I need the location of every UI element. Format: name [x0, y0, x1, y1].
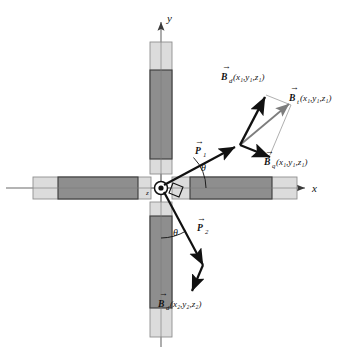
bt1-main: B — [288, 93, 295, 103]
bq1-args: (x₁,y₁,z₁) — [276, 157, 307, 167]
vector-diagram-svg: y x z θ θ → P 1 → P 2 → B d — [0, 0, 349, 353]
p1-main: P — [195, 146, 201, 156]
bt1-args: (x₁,y₁,z₁) — [300, 93, 331, 103]
bd1-main: B — [220, 72, 227, 82]
construction-line-upper — [266, 95, 291, 105]
label-bd-1: → B d (x₁,y₁,z₁) — [220, 61, 264, 84]
theta-lower-label: θ — [173, 227, 178, 238]
z-axis-label: z — [145, 189, 149, 197]
p1-overbar: → — [195, 136, 204, 146]
label-p2: → P 2 — [197, 213, 209, 235]
p1-sub: 1 — [203, 151, 206, 158]
label-bd-2: → B d (x₂,y₂,z₂) — [157, 288, 201, 311]
label-bt-1: → B t (x₁,y₁,z₁) — [288, 82, 331, 105]
vector-bd-1 — [240, 97, 265, 145]
bd1-overbar: → — [222, 61, 231, 71]
bd2-args: (x₂,y₂,z₂) — [170, 299, 201, 309]
p2-overbar: → — [197, 213, 206, 223]
bt1-overbar: → — [290, 82, 299, 92]
label-p1: → P 1 — [195, 136, 206, 158]
figure-root: y x z θ θ → P 1 → P 2 → B d — [0, 0, 349, 353]
p2-sub: 2 — [205, 228, 209, 235]
bd2-main: B — [157, 299, 164, 309]
svg-text:→: → — [195, 136, 204, 146]
vector-bt-1 — [240, 104, 289, 145]
x-axis-label: x — [311, 182, 317, 194]
z-axis-dot — [158, 185, 163, 190]
bd2-overbar: → — [159, 288, 168, 298]
p2-main: P — [197, 223, 203, 233]
theta-upper-label: θ — [201, 162, 206, 173]
bq1-overbar: → — [265, 146, 274, 156]
bd1-args: (x₁,y₁,z₁) — [233, 72, 264, 82]
label-bq-1: → B q (x₁,y₁,z₁) — [263, 146, 307, 169]
y-axis-label: y — [166, 12, 172, 24]
vector-bd-2 — [192, 265, 203, 291]
svg-text:→: → — [197, 213, 206, 223]
bq1-main: B — [263, 157, 270, 167]
